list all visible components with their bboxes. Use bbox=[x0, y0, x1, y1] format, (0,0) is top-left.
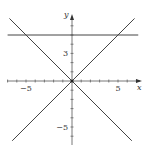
series-line bbox=[12, 18, 134, 140]
x-tick-label: 5 bbox=[115, 84, 120, 93]
function-graph: x y −553−5 bbox=[0, 0, 152, 152]
plot-lines bbox=[8, 18, 139, 140]
origin-point bbox=[70, 79, 73, 82]
y-axis-arrow-icon bbox=[70, 14, 74, 20]
x-tick-label: −5 bbox=[20, 84, 32, 93]
y-tick-label: 3 bbox=[63, 49, 68, 58]
tick-labels: −553−5 bbox=[20, 49, 120, 132]
y-tick-label: −5 bbox=[56, 123, 68, 132]
series-line bbox=[9, 18, 131, 140]
x-axis-label: x bbox=[137, 83, 142, 92]
y-axis-label: y bbox=[63, 10, 69, 19]
